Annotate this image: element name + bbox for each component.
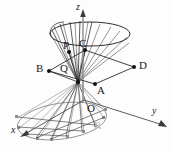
point-label-Q: Q — [60, 63, 68, 74]
z-axis-arrowhead — [80, 9, 86, 17]
axis-label-x: x — [11, 125, 15, 135]
axis-label-z: z — [76, 2, 80, 12]
axis-label-y: y — [152, 106, 156, 116]
y-axis-arrowhead — [158, 120, 167, 127]
point-label-B: B — [36, 63, 43, 74]
upper-base-ellipse — [50, 22, 130, 46]
point-label-A: A — [97, 85, 105, 96]
apex-dot — [76, 80, 80, 84]
point-label-C: C — [79, 38, 86, 49]
point-B-dot — [47, 69, 51, 73]
point-D-dot — [132, 65, 136, 69]
figure-canvas — [0, 0, 171, 152]
point-label-R: R — [94, 120, 101, 131]
point-label-D: D — [139, 60, 147, 71]
point-label-P: P — [63, 40, 69, 51]
point-label-O: O — [87, 103, 95, 114]
geometry-figure: z y x P C B Q D A O R — [0, 0, 171, 152]
